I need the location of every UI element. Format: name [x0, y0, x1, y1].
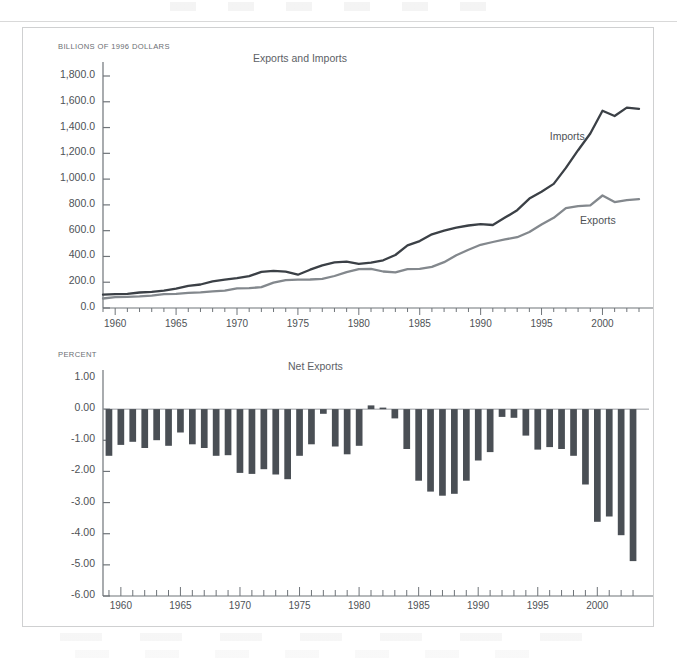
x-tick-label-1980: 1980	[337, 600, 381, 611]
y-tick-label-600.0: 600.0	[23, 223, 95, 235]
bar-1973	[272, 409, 279, 474]
bar-1994	[523, 409, 530, 436]
bar-1986	[427, 409, 434, 492]
bar-1992	[499, 409, 506, 417]
bar-1997	[558, 409, 565, 449]
x-tick-label-1985: 1985	[398, 318, 442, 329]
cutoff-text-ghost-bottom-1	[60, 633, 620, 641]
x-tick-label-1960: 1960	[99, 600, 143, 611]
figure-frame: BILLIONS OF 1996 DOLLARS Exports and Imp…	[22, 27, 654, 627]
bar-1964	[165, 409, 172, 446]
bar-1971	[249, 409, 256, 474]
bar-2000	[594, 409, 601, 522]
bar-1984	[403, 409, 410, 449]
y-tick-label-400.0: 400.0	[23, 248, 95, 260]
bar-1980	[356, 409, 363, 446]
x-tick-label-1980: 1980	[337, 318, 381, 329]
chart-net-exports: PERCENT Net Exports -6.00-5.00-4.00-3.00…	[23, 338, 655, 626]
y-tick-label--3.00: -3.00	[23, 495, 95, 507]
bar-1999	[582, 409, 589, 484]
cutoff-text-ghost-bottom-2	[75, 650, 555, 658]
x-tick-label-1975: 1975	[278, 600, 322, 611]
bar-1991	[487, 409, 494, 452]
bar-1959	[106, 409, 113, 456]
bar-1960	[118, 409, 125, 445]
bar-1975	[296, 409, 303, 456]
bar-1962	[141, 409, 148, 448]
y-tick-label-1,000.0: 1,000.0	[23, 171, 95, 183]
series-label-imports: Imports	[550, 130, 610, 142]
page-bleed-bottom	[0, 632, 677, 657]
bottom-chart-canvas	[23, 338, 655, 626]
bar-1977	[320, 409, 327, 414]
y-tick-label-0.00: 0.00	[23, 401, 95, 413]
bar-1969	[225, 409, 232, 455]
bar-1968	[213, 409, 220, 456]
bar-1981	[368, 405, 375, 409]
bar-2002	[618, 409, 625, 535]
bar-1989	[463, 409, 470, 481]
bar-1978	[332, 409, 339, 446]
y-tick-label--2.00: -2.00	[23, 463, 95, 475]
y-tick-label-1,600.0: 1,600.0	[23, 94, 95, 106]
bar-1993	[511, 409, 518, 418]
bar-1963	[153, 409, 160, 440]
y-tick-label-1,800.0: 1,800.0	[23, 68, 95, 80]
bar-1987	[439, 409, 446, 496]
bar-1974	[284, 409, 291, 479]
page-bleed-top	[0, 0, 677, 22]
bar-1990	[475, 409, 482, 460]
bar-1967	[201, 409, 208, 448]
y-tick-label-800.0: 800.0	[23, 197, 95, 209]
x-tick-label-1990: 1990	[456, 600, 500, 611]
y-tick-label-1,400.0: 1,400.0	[23, 120, 95, 132]
y-tick-label-200.0: 200.0	[23, 274, 95, 286]
x-tick-label-1995: 1995	[516, 600, 560, 611]
bar-1982	[380, 408, 387, 410]
page-hairline-top	[0, 21, 677, 22]
bar-1979	[344, 409, 351, 454]
y-tick-label--5.00: -5.00	[23, 557, 95, 569]
bar-1965	[177, 409, 184, 432]
x-tick-label-1975: 1975	[276, 318, 320, 329]
x-tick-label-1970: 1970	[215, 318, 259, 329]
x-tick-label-1970: 1970	[218, 600, 262, 611]
x-tick-label-1985: 1985	[397, 600, 441, 611]
bar-1966	[189, 409, 196, 444]
bar-1988	[451, 409, 458, 494]
y-tick-label--1.00: -1.00	[23, 432, 95, 444]
bar-1970	[237, 409, 244, 473]
x-tick-label-1995: 1995	[520, 318, 564, 329]
top-chart-canvas	[23, 28, 655, 338]
bar-1996	[546, 409, 553, 447]
x-tick-label-1960: 1960	[93, 318, 137, 329]
x-tick-label-1965: 1965	[154, 318, 198, 329]
bar-1985	[415, 409, 422, 481]
bar-1972	[261, 409, 268, 469]
cutoff-text-ghost-top	[170, 2, 510, 11]
y-tick-label--6.00: -6.00	[23, 588, 95, 600]
bar-1976	[308, 409, 315, 444]
y-tick-label-0.0: 0.0	[23, 300, 95, 312]
y-tick-label--4.00: -4.00	[23, 526, 95, 538]
series-label-exports: Exports	[580, 214, 640, 226]
y-tick-label-1.00: 1.00	[23, 370, 95, 382]
x-tick-label-2000: 2000	[580, 318, 624, 329]
bar-1998	[570, 409, 577, 456]
x-tick-label-1990: 1990	[459, 318, 503, 329]
x-tick-label-2000: 2000	[575, 600, 619, 611]
x-tick-label-1965: 1965	[158, 600, 202, 611]
bar-1961	[129, 409, 136, 442]
y-tick-label-1,200.0: 1,200.0	[23, 145, 95, 157]
bar-2003	[630, 409, 637, 561]
chart-exports-imports: BILLIONS OF 1996 DOLLARS Exports and Imp…	[23, 28, 655, 338]
bar-1983	[392, 409, 399, 418]
bar-1995	[534, 409, 541, 450]
bar-2001	[606, 409, 613, 516]
